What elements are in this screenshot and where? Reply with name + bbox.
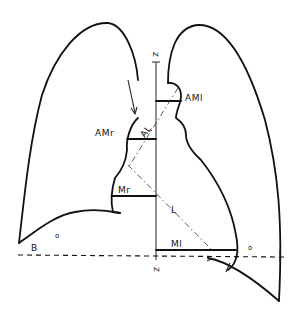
dot-left-marker: o: [55, 232, 59, 240]
am-right-label: AMl: [185, 93, 203, 103]
al-label: AL: [138, 124, 153, 140]
left-diaphragm-outline: [19, 210, 120, 243]
left-lung-outline: [19, 23, 138, 243]
am-left-label: AMr: [95, 128, 114, 138]
axis-top-label: Z: [151, 52, 159, 57]
b-label: B: [31, 243, 38, 253]
m-right-label: Ml: [171, 239, 182, 249]
chest-diagram-canvas: Z Z AMl AMr AL Mr L Ml B o o: [0, 0, 296, 311]
al-axis-line: [128, 88, 178, 168]
right-diaphragm-outline: [208, 258, 279, 301]
chest-outline-diagram: Z Z AMl AMr AL Mr L Ml B o o: [0, 0, 296, 311]
l-label: L: [171, 205, 177, 215]
dot-right-marker: o: [248, 244, 252, 252]
heart-right-border: [112, 118, 138, 213]
dashed-baseline: [18, 255, 284, 257]
m-left-label: Mr: [118, 185, 130, 195]
axis-bottom-label: Z: [152, 267, 160, 272]
l-axis-line: [128, 165, 212, 250]
right-lung-outline: [168, 25, 280, 301]
